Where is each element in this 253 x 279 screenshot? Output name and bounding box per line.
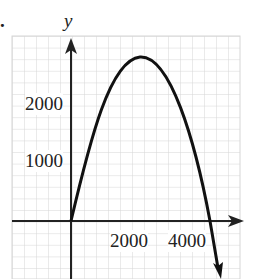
y-axis-label: y: [64, 10, 72, 32]
y-tick-2000: 2000: [25, 93, 63, 115]
y-tick-1000: 1000: [25, 150, 63, 172]
x-tick-2000: 2000: [110, 230, 148, 252]
x-tick-4000: 4000: [168, 230, 206, 252]
